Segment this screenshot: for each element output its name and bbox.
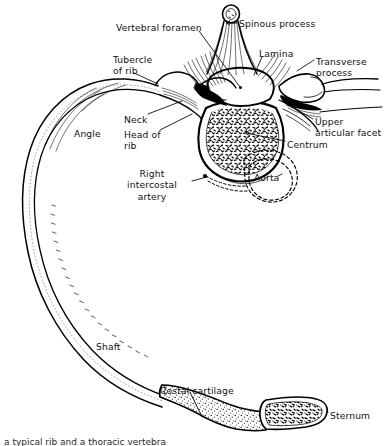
anatomical-figure: Spinous process Vertebral foramen Lamina… bbox=[0, 0, 386, 446]
label-tubercle-of-rib: Tubercle of rib bbox=[113, 54, 152, 77]
label-sternum: Sternum bbox=[330, 410, 370, 421]
label-upper-articular-facet: Upper articular facet bbox=[315, 116, 381, 139]
label-lamina: Lamina bbox=[259, 48, 293, 59]
right-rib-stub bbox=[320, 79, 382, 112]
sternum bbox=[260, 397, 327, 429]
label-neck: Neck bbox=[124, 114, 147, 125]
label-transverse-process: Transverse process bbox=[316, 56, 367, 79]
label-aorta: Aorta bbox=[254, 172, 279, 183]
label-costal-cartilage: Costal cartilage bbox=[160, 385, 234, 396]
label-spinous-process: Spinous process bbox=[239, 18, 315, 29]
label-right-intercostal-artery: Right intercostal artery bbox=[112, 168, 192, 202]
figure-caption-cropped: a typical rib and a thoracic vertebra bbox=[4, 437, 264, 446]
label-centrum: Centrum bbox=[287, 139, 328, 150]
label-head-of-rib: Head of rib bbox=[124, 129, 161, 152]
label-shaft: Shaft bbox=[96, 341, 121, 352]
label-vertebral-foramen: Vertebral foramen bbox=[116, 22, 202, 33]
label-angle: Angle bbox=[74, 128, 101, 139]
